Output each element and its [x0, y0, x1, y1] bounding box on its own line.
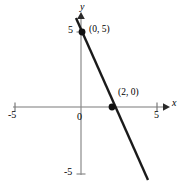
x-axis-arrowhead	[163, 103, 170, 111]
y-axis-label: y	[80, 2, 84, 12]
x-axis-tick-label-5: 5	[154, 110, 159, 120]
y-axis-arrowhead	[77, 12, 85, 19]
point-label-x-intercept: (2, 0)	[118, 88, 139, 98]
x-axis-label: x	[172, 98, 176, 108]
y-axis-tick-label-5: 5	[68, 25, 73, 35]
x-axis-group	[13, 103, 170, 112]
x-axis-tick-label-neg5: -5	[8, 110, 16, 120]
line-graph-figure: y x 5 -5 5 -5 0 (0, 5) (2, 0)	[0, 0, 183, 187]
point-marker-y-intercept	[79, 29, 86, 36]
y-axis-tick-label-neg5: -5	[64, 167, 72, 177]
plotted-line	[76, 18, 148, 180]
point-label-y-intercept: (0, 5)	[89, 25, 110, 35]
point-marker-x-intercept	[109, 104, 116, 111]
origin-label: 0	[77, 112, 82, 122]
